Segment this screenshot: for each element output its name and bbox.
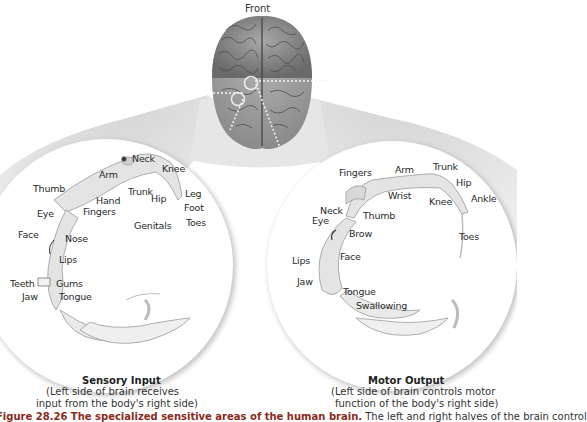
sensory-label-arm: Arm <box>99 170 118 180</box>
sensory-input-subtitle-line2: input from the body's right side) <box>36 398 198 410</box>
sensory-label-lips: Lips <box>59 255 77 265</box>
motor-label-thumb: Thumb <box>363 211 395 221</box>
motor-label-swallowing: Swallowing <box>356 301 407 311</box>
figure-caption: Figure 28.26 The specialized sensitive a… <box>0 411 587 422</box>
sensory-label-hand: Hand <box>96 196 120 206</box>
sensory-label-tongue: Tongue <box>59 292 92 302</box>
sensory-input-title: Sensory Input <box>82 375 161 386</box>
motor-label-hip: Hip <box>456 178 471 188</box>
sensory-label-trunk: Trunk <box>128 187 153 197</box>
motor-output-subtitle-line2: function of the body's right side) <box>335 398 498 410</box>
motor-label-brow: Brow <box>349 229 372 239</box>
motor-output-subtitle-line1: (Left side of brain controls motor <box>331 386 495 398</box>
motor-output-title: Motor Output <box>368 375 444 386</box>
sensory-label-leg: Leg <box>185 189 201 199</box>
sensory-label-foot: Foot <box>184 203 204 213</box>
sensory-label-hip: Hip <box>151 194 166 204</box>
sensory-label-knee: Knee <box>162 164 185 174</box>
front-orientation-label: Front <box>245 3 270 14</box>
sensory-label-thumb: Thumb <box>33 184 65 194</box>
sensory-label-neck: Neck <box>132 154 155 164</box>
sensory-label-gums: Gums <box>56 279 83 289</box>
sensory-label-toes: Toes <box>186 218 206 228</box>
motor-label-jaw: Jaw <box>297 277 313 287</box>
motor-label-ankle: Ankle <box>471 194 497 204</box>
sensory-label-genitals: Genitals <box>134 221 171 231</box>
sensory-label-nose: Nose <box>65 234 88 244</box>
sensory-label-fingers: Fingers <box>83 207 116 217</box>
sensory-label-teeth: Teeth <box>10 279 35 289</box>
motor-label-knee: Knee <box>429 197 452 207</box>
figure-caption-label: Figure 28.26 The specialized sensitive a… <box>0 411 362 422</box>
sensory-label-eye: Eye <box>37 209 54 219</box>
motor-label-trunk: Trunk <box>433 162 458 172</box>
motor-label-fingers: Fingers <box>339 168 372 178</box>
motor-label-arm: Arm <box>395 165 414 175</box>
motor-label-eye: Eye <box>312 216 329 226</box>
sensory-input-subtitle-line1: (Left side of brain receives <box>46 386 179 398</box>
motor-label-face: Face <box>340 252 361 262</box>
sensory-label-jaw: Jaw <box>22 292 38 302</box>
motor-label-toes: Toes <box>459 232 479 242</box>
motor-label-tongue: Tongue <box>343 287 376 297</box>
sensory-label-face: Face <box>18 230 39 240</box>
motor-label-lips: Lips <box>292 256 310 266</box>
figure-caption-text: The left and right halves of the brain c… <box>362 411 587 422</box>
motor-label-wrist: Wrist <box>388 191 411 201</box>
